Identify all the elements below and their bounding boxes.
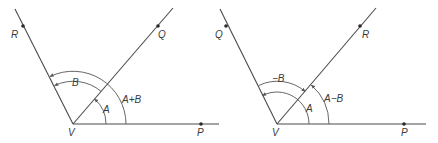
label-angle-a-minus-b: A−B [323,93,344,104]
diagram-canvas: V P Q R A B A+B V P R Q A −B A−B [0,0,438,143]
diagram-angle-sum: V P Q R A B A+B [11,8,219,138]
ray-vq [220,9,277,124]
point-q-dot [156,24,160,28]
label-q: Q [215,29,223,40]
label-angle-b: B [72,77,79,88]
label-r: R [362,29,369,40]
label-r: R [11,29,18,40]
label-angle-a: A [102,104,110,115]
point-p-dot [402,122,406,126]
label-v: V [272,127,280,138]
diagram-angle-difference: V P R Q A −B A−B [215,8,426,138]
label-v: V [68,127,76,138]
label-p: P [401,127,408,138]
label-angle-a-plus-b: A+B [121,94,142,105]
label-q: Q [158,29,166,40]
label-angle-neg-b: −B [272,73,285,84]
arc-angle-a-plus-b [50,71,126,124]
point-q-dot [224,24,228,28]
label-angle-a: A [305,103,313,114]
point-p-dot [199,122,203,126]
label-p: P [197,127,204,138]
point-r-dot [21,24,25,28]
arc-angle-a-minus-b [311,85,329,124]
point-r-dot [358,24,362,28]
